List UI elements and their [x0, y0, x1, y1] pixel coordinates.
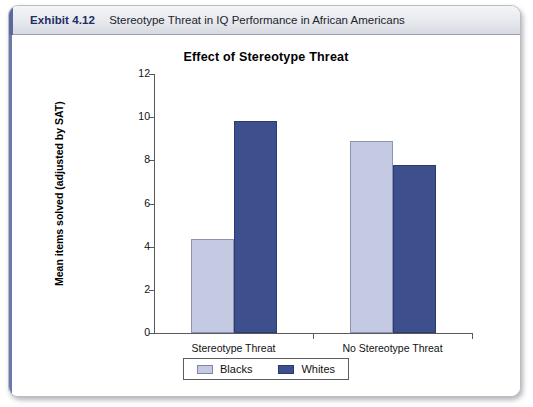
bar: [350, 141, 393, 333]
y-axis-tick-label: 8: [144, 153, 150, 165]
x-axis-tick-mark: [313, 333, 314, 339]
x-axis-tick-mark: [472, 333, 473, 339]
exhibit-number: Exhibit 4.12: [30, 14, 95, 26]
exhibit-title: Stereotype Threat in IQ Performance in A…: [109, 14, 405, 26]
y-axis-tick-label: 0: [144, 326, 150, 338]
exhibit-frame: Exhibit 4.12 Stereotype Threat in IQ Per…: [8, 5, 521, 397]
y-axis-tick-label: 2: [144, 283, 150, 295]
y-axis-tick-label: 6: [144, 197, 150, 209]
legend-swatch: [278, 365, 294, 374]
chart-legend: BlacksWhites: [183, 358, 349, 380]
bar-chart: Effect of Stereotype Threat Mean items s…: [12, 35, 520, 397]
x-axis-category-label: No Stereotype Threat: [313, 342, 472, 354]
exhibit-header: Exhibit 4.12 Stereotype Threat in IQ Per…: [9, 6, 520, 35]
legend-swatch: [197, 365, 213, 374]
y-axis-tick-label: 4: [144, 240, 150, 252]
bar: [234, 121, 277, 333]
bar: [191, 239, 234, 333]
x-axis-category-label: Stereotype Threat: [154, 342, 313, 354]
legend-entry: Whites: [278, 363, 335, 375]
y-axis-line: [154, 74, 155, 333]
plot-area: 024681012 Stereotype ThreatNo Stereotype…: [154, 74, 472, 333]
legend-entry: Blacks: [197, 363, 252, 375]
legend-label: Whites: [301, 363, 335, 375]
y-axis-title: Mean items solved (adjusted by SAT): [53, 116, 65, 286]
chart-title: Effect of Stereotype Threat: [12, 50, 520, 64]
bar: [393, 165, 436, 333]
y-axis-tick-label: 12: [138, 67, 150, 79]
legend-label: Blacks: [220, 363, 252, 375]
exhibit-body: Effect of Stereotype Threat Mean items s…: [9, 35, 520, 397]
y-axis-tick-label: 10: [138, 110, 150, 122]
header-accent-rule: [9, 6, 13, 35]
